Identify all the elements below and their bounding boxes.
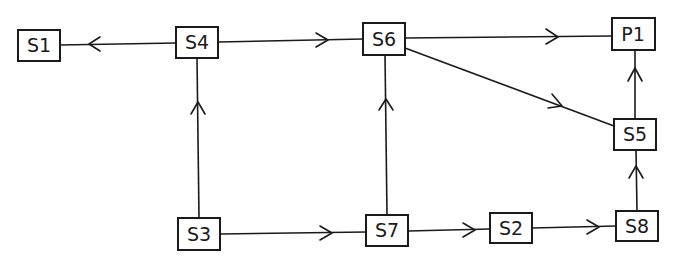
edge-s8-s5 [636, 150, 637, 211]
node-label: S3 [187, 223, 211, 245]
node-s4[interactable]: S4 [176, 27, 218, 58]
node-label: S8 [625, 215, 649, 237]
arrowhead-diagonal-icon [548, 94, 562, 108]
edge-s4-s6 [218, 39, 363, 42]
node-s5[interactable]: S5 [614, 119, 656, 150]
node-label: S6 [372, 28, 396, 50]
node-label: S2 [499, 217, 523, 239]
edge-s6-s5 [405, 48, 614, 126]
edge-s7-s2 [408, 229, 490, 231]
node-p1[interactable]: P1 [612, 18, 655, 50]
edge-s2-s8 [532, 226, 616, 228]
edges [60, 29, 643, 240]
node-label: S1 [27, 34, 51, 56]
node-s7[interactable]: S7 [366, 215, 408, 246]
node-s8[interactable]: S8 [616, 211, 658, 241]
edge-s7-s6 [385, 55, 387, 215]
edge-s6-p1 [405, 36, 612, 38]
node-label: S4 [185, 31, 209, 53]
flow-diagram: S1 S4 S6 P1 S5 S3 S7 S2 [0, 0, 676, 271]
node-label: P1 [621, 23, 645, 45]
node-s2[interactable]: S2 [490, 213, 532, 243]
node-s1[interactable]: S1 [18, 30, 60, 61]
edge-s3-s7 [220, 232, 366, 234]
node-s6[interactable]: S6 [363, 23, 405, 55]
edge-s3-s4 [197, 58, 199, 218]
edge-s4-s1 [60, 43, 176, 45]
nodes: S1 S4 S6 P1 S5 S3 S7 S2 [18, 18, 658, 250]
node-s3[interactable]: S3 [178, 218, 220, 250]
node-label: S7 [375, 219, 399, 241]
node-label: S5 [623, 123, 647, 145]
